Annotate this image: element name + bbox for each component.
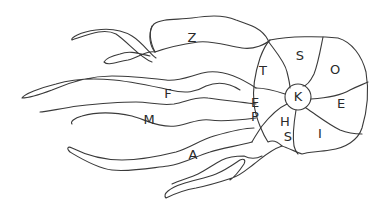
label-h: H <box>280 114 290 129</box>
divider-i-hs <box>293 110 298 154</box>
label-i: I <box>318 126 322 141</box>
divider-t-s <box>268 41 290 88</box>
label-m: M <box>143 112 154 127</box>
divider-ep-t <box>256 88 285 94</box>
head <box>252 37 368 154</box>
label-f: F <box>164 86 171 101</box>
octopus-diagram: K S O E I H S E P T Z F M A <box>0 0 375 213</box>
label-ep-e: E <box>251 95 259 110</box>
label-hs-s: S <box>284 129 292 144</box>
tentacle-z <box>150 16 270 52</box>
tentacles <box>22 16 282 198</box>
tentacle-upper-curl <box>72 29 156 63</box>
divider-e-i <box>306 108 362 134</box>
label-t: T <box>258 63 267 78</box>
divider-s-o <box>303 37 323 86</box>
label-o: O <box>330 62 340 77</box>
label-ep-p: P <box>251 109 259 124</box>
label-a: A <box>189 147 198 162</box>
label-k: K <box>294 89 303 104</box>
label-s: S <box>296 48 304 63</box>
tentacle-a <box>68 128 254 171</box>
tentacle-f <box>22 72 256 98</box>
tentacle-lower-curl <box>165 146 282 198</box>
label-z: Z <box>188 30 197 45</box>
label-e: E <box>337 96 345 111</box>
